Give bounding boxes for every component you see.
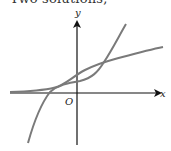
origin-label: O	[65, 96, 73, 107]
flat-rising-curve	[10, 47, 163, 92]
y-axis-label: y	[74, 7, 81, 18]
x-axis-label: x	[160, 88, 166, 99]
graph: y x O	[0, 0, 171, 151]
